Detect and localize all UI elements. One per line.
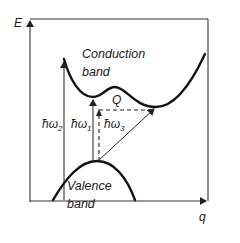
phonon-q-label: Q — [112, 93, 121, 107]
band-diagram: E q Conduction band Valence band Q ħω2 ħ… — [0, 0, 240, 243]
hw3-label: ħω3 — [104, 117, 125, 133]
valence-band-label-line1: Valence — [67, 179, 112, 193]
valence-band-label-line2: band — [67, 197, 96, 211]
hw2-label: ħω2 — [42, 117, 63, 133]
conduction-band-label-line2: band — [82, 65, 111, 79]
hw1-label: ħω1 — [71, 117, 91, 133]
conduction-band-label-line1: Conduction — [82, 47, 145, 61]
energy-axis-label: E — [14, 16, 23, 30]
conduction-band-curve — [64, 54, 205, 107]
momentum-axis-label: q — [199, 210, 206, 224]
